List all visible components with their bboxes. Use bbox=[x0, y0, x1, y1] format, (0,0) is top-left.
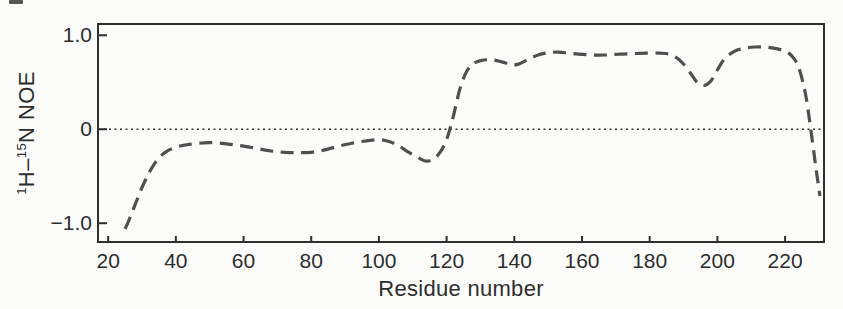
plot-frame bbox=[98, 24, 824, 242]
x-tick-label: 120 bbox=[429, 249, 464, 272]
y-axis-title-mid: H– bbox=[14, 158, 39, 187]
y-tick-label: 0 bbox=[80, 117, 92, 140]
noe-plot: 204060801001201401601802002201.00−1.0 bbox=[0, 0, 843, 309]
x-tick-label: 200 bbox=[700, 249, 735, 272]
x-tick-label: 180 bbox=[632, 249, 667, 272]
noe-figure: 204060801001201401601802002201.00−1.0 1H… bbox=[0, 0, 843, 309]
x-tick-label: 40 bbox=[164, 249, 187, 272]
x-tick-label: 140 bbox=[497, 249, 532, 272]
y-axis-title-superscript-15: 15 bbox=[14, 143, 29, 158]
y-tick-label: −1.0 bbox=[51, 211, 92, 234]
y-axis-title: 1H–15N NOE bbox=[14, 71, 40, 195]
x-tick-label: 20 bbox=[96, 249, 119, 272]
noe-curve bbox=[125, 47, 820, 229]
x-tick-label: 60 bbox=[232, 249, 255, 272]
x-tick-label: 160 bbox=[564, 249, 599, 272]
y-tick-label: 1.0 bbox=[63, 23, 92, 46]
y-axis-title-superscript-1: 1 bbox=[14, 187, 29, 195]
x-tick-label: 100 bbox=[361, 249, 396, 272]
x-tick-label: 220 bbox=[768, 249, 803, 272]
x-axis-title: Residue number bbox=[98, 276, 824, 302]
y-axis-title-end: N NOE bbox=[14, 71, 39, 143]
x-tick-label: 80 bbox=[300, 249, 323, 272]
